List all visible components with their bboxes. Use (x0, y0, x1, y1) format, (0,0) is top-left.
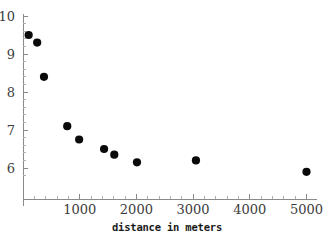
y-axis-minor-ticks (23, 24, 26, 176)
x-tick-label-4000: 4000 (233, 202, 266, 217)
data-point-2 (40, 73, 48, 81)
y-tick-label-10: 10 (0, 9, 15, 24)
y-tick-label-6: 6 (7, 161, 15, 176)
data-point-3 (63, 122, 71, 130)
x-tick-label-2000: 2000 (120, 202, 153, 217)
x-tick-label-5000: 5000 (290, 202, 323, 217)
data-point-7 (133, 158, 141, 166)
y-tick-label-8: 8 (7, 85, 15, 100)
data-point-4 (75, 135, 83, 143)
x-axis-group: 10002000300040005000 (23, 194, 323, 217)
y-tick-label-7: 7 (7, 123, 15, 138)
scatter-data-points (25, 31, 311, 176)
data-point-1 (33, 39, 41, 47)
y-axis-group: 678910 (0, 9, 28, 207)
scatter-plot-figure: 678910 10002000300040005000 distance in … (0, 0, 334, 233)
data-point-9 (302, 168, 310, 176)
scatter-plot-screenshot: 678910 10002000300040005000 distance in … (0, 0, 334, 233)
data-point-8 (192, 156, 200, 164)
x-axis-tick-labels: 10002000300040005000 (63, 202, 323, 217)
data-point-5 (100, 145, 108, 153)
x-tick-label-3000: 3000 (177, 202, 210, 217)
x-axis-title: distance in meters (112, 221, 222, 233)
y-tick-label-9: 9 (7, 47, 15, 62)
x-tick-label-1000: 1000 (63, 202, 96, 217)
data-point-0 (25, 31, 33, 39)
data-point-6 (110, 151, 118, 159)
y-axis-tick-labels: 678910 (0, 9, 15, 176)
